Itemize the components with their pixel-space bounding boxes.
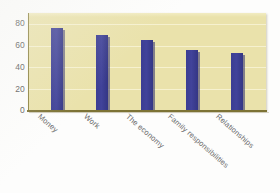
bar-side-shade xyxy=(108,37,110,111)
bar-relationships xyxy=(231,53,243,111)
y-tick-label-20: 20 xyxy=(1,85,25,94)
bar-family-responsibilities xyxy=(186,50,198,111)
bar-money xyxy=(51,28,63,111)
bar-chart-figure: 80 60 40 20 0 Money Work The economy Fam… xyxy=(0,0,280,193)
gridline-80 xyxy=(29,24,266,25)
bar-work xyxy=(96,35,108,111)
plot-area xyxy=(28,13,266,111)
y-tick-label-60: 60 xyxy=(1,41,25,50)
y-tick-label-80: 80 xyxy=(1,19,25,28)
bar-side-shade xyxy=(243,55,245,111)
x-tick-label-work: Work xyxy=(82,112,102,131)
x-tick-label-relationships: Relationships xyxy=(214,112,256,150)
x-tick-label-money: Money xyxy=(36,112,60,134)
x-axis-tick-labels: Money Work The economy Family responsibi… xyxy=(0,112,280,193)
bar-side-shade xyxy=(153,42,155,111)
y-tick-label-40: 40 xyxy=(1,63,25,72)
x-tick-label-the-economy: The economy xyxy=(124,112,166,150)
bar-side-shade xyxy=(198,52,200,111)
bar-the-economy xyxy=(141,40,153,111)
bar-side-shade xyxy=(63,30,65,111)
plot-top-highlight xyxy=(29,13,266,17)
